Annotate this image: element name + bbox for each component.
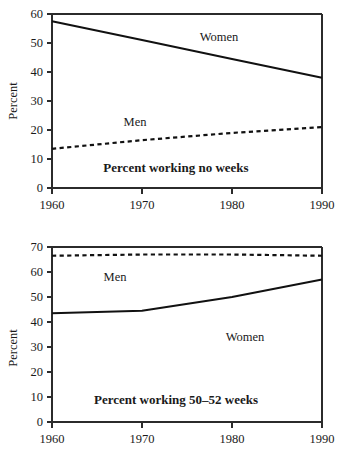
series-label-women: Women (226, 330, 265, 344)
x-tick-label: 1970 (130, 432, 155, 446)
x-axis-labels-top: 1960 1970 1980 1990 (40, 198, 335, 212)
y-tick-label: 30 (31, 340, 44, 354)
y-axis-labels-bottom: 70 60 50 40 30 20 10 0 (31, 240, 44, 429)
y-tick-label: 50 (31, 36, 44, 50)
y-tick-label: 30 (31, 94, 44, 108)
y-axis-ticks-bottom (47, 247, 52, 422)
series-label-men: Men (104, 270, 128, 284)
series-line-women (52, 280, 322, 314)
panel-title-bottom: Percent working 50–52 weeks (94, 392, 258, 407)
panel-title-top: Percent working no weeks (103, 160, 248, 175)
figure-root: 60 50 40 30 20 10 0 1960 1970 1980 1990 (0, 0, 342, 454)
chart-svg-top: 60 50 40 30 20 10 0 1960 1970 1980 1990 (0, 0, 342, 225)
x-axis-ticks-top (52, 188, 322, 194)
y-axis-title: Percent (6, 82, 20, 120)
x-tick-label: 1970 (130, 198, 155, 212)
y-tick-label: 20 (31, 123, 44, 137)
chart-panel-top: 60 50 40 30 20 10 0 1960 1970 1980 1990 (0, 0, 342, 225)
y-tick-label: 60 (31, 265, 44, 279)
x-tick-label: 1990 (310, 432, 335, 446)
series-line-men (52, 255, 322, 256)
chart-svg-bottom: 70 60 50 40 30 20 10 0 1960 1970 1980 19 (0, 228, 342, 454)
y-tick-label: 0 (37, 415, 43, 429)
series-label-women: Women (200, 30, 239, 44)
series-label-men: Men (124, 115, 148, 129)
x-tick-label: 1980 (220, 198, 245, 212)
y-tick-label: 40 (31, 65, 44, 79)
x-tick-label: 1980 (220, 432, 245, 446)
y-tick-label: 20 (31, 365, 44, 379)
y-axis-title: Percent (6, 329, 20, 367)
series-line-men (52, 127, 322, 149)
series-line-women (52, 21, 322, 78)
y-tick-label: 60 (31, 7, 44, 21)
y-tick-label: 40 (31, 315, 44, 329)
y-axis-labels-top: 60 50 40 30 20 10 0 (31, 7, 44, 195)
y-tick-label: 10 (31, 390, 44, 404)
x-tick-label: 1990 (310, 198, 335, 212)
x-axis-ticks-bottom (52, 422, 322, 428)
x-tick-label: 1960 (40, 198, 65, 212)
x-axis-labels-bottom: 1960 1970 1980 1990 (40, 432, 335, 446)
y-tick-label: 10 (31, 152, 44, 166)
y-tick-label: 0 (37, 181, 43, 195)
y-tick-label: 50 (31, 290, 44, 304)
x-tick-label: 1960 (40, 432, 65, 446)
chart-panel-bottom: 70 60 50 40 30 20 10 0 1960 1970 1980 19 (0, 228, 342, 454)
y-axis-ticks-top (47, 14, 52, 188)
y-tick-label: 70 (31, 240, 44, 254)
